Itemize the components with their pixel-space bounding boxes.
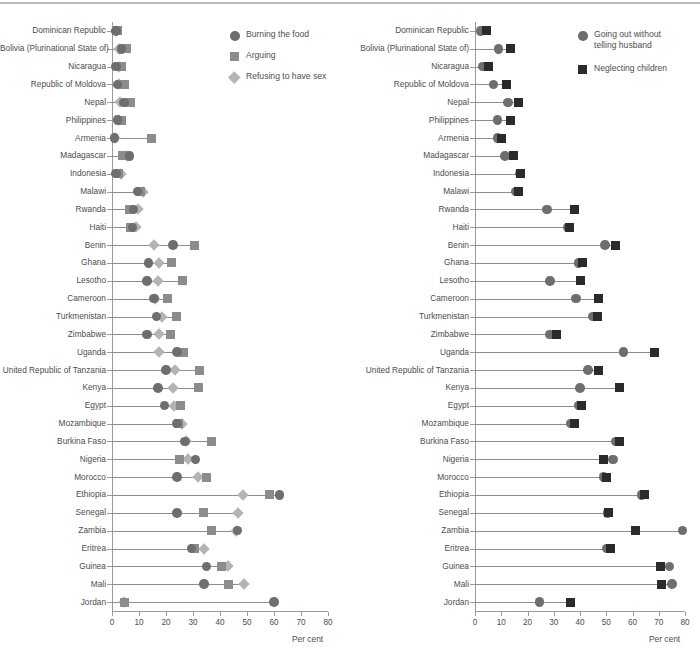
value-connector-line — [112, 441, 212, 442]
value-connector-line — [475, 531, 682, 532]
data-point-circle — [110, 133, 120, 143]
value-connector-line — [112, 495, 279, 496]
data-point-square — [176, 401, 185, 410]
value-connector-line — [112, 370, 200, 371]
data-point-diamond — [152, 275, 163, 286]
category-label: Egypt — [0, 396, 106, 415]
data-point-square — [577, 401, 586, 410]
data-point-circle — [172, 508, 182, 518]
data-point-circle — [128, 223, 138, 233]
data-point-circle — [233, 526, 243, 536]
category-label: Dominican Republic — [350, 21, 469, 40]
category-label: Mozambique — [350, 414, 469, 433]
x-axis-tick-label: 40 — [570, 618, 590, 627]
data-point-square — [497, 134, 506, 143]
category-label: Nigeria — [0, 450, 106, 469]
data-point-circle — [172, 419, 182, 429]
data-point-circle — [119, 98, 129, 108]
x-axis-tick — [301, 612, 302, 616]
data-point-square — [175, 455, 184, 464]
category-label: Jordan — [0, 593, 106, 612]
data-point-square — [611, 241, 620, 250]
value-connector-line — [475, 441, 619, 442]
value-connector-line — [475, 495, 644, 496]
category-label: Benin — [350, 236, 469, 255]
x-axis-tick — [193, 612, 194, 616]
legend-label: Neglecting children — [594, 63, 667, 74]
data-point-square — [656, 562, 665, 571]
value-connector-line — [475, 602, 571, 603]
x-axis-title: Per cent — [649, 634, 680, 644]
data-point-circle — [111, 26, 121, 36]
data-point-square — [163, 294, 172, 303]
x-axis-tick — [274, 612, 275, 616]
category-label: Uganda — [350, 343, 469, 362]
category-label: Guinea — [350, 557, 469, 576]
data-point-circle — [142, 276, 152, 286]
data-point-circle — [180, 437, 190, 447]
data-point-diamond — [198, 543, 209, 554]
data-point-square — [615, 383, 624, 392]
x-axis-tick — [528, 612, 529, 616]
value-connector-line — [475, 477, 606, 478]
category-label: Indonesia — [350, 164, 469, 183]
legend-swatch-circle-icon — [578, 31, 588, 41]
data-point-square — [195, 366, 204, 375]
data-point-circle — [489, 80, 499, 90]
left-plot-area: Dominican RepublicBolivia (Plurinational… — [0, 0, 350, 657]
x-axis-tick — [139, 612, 140, 616]
data-point-square — [565, 223, 574, 232]
legend-swatch-circle-icon — [230, 31, 240, 41]
x-axis-tick — [475, 612, 476, 616]
data-point-circle — [619, 347, 629, 357]
category-label: Haiti — [0, 218, 106, 237]
category-label: Ghana — [350, 253, 469, 272]
x-axis-tick — [247, 612, 248, 616]
data-point-square — [484, 62, 493, 71]
data-point-circle — [275, 490, 285, 500]
data-point-square — [516, 169, 525, 178]
category-label: Ethiopia — [350, 485, 469, 504]
category-label: Turkmenistan — [0, 307, 106, 326]
data-point-square — [552, 330, 561, 339]
legend-label: Going out withouttelling husband — [594, 29, 661, 50]
data-point-square — [167, 258, 176, 267]
x-axis-tick-label: 10 — [491, 618, 511, 627]
x-axis-tick — [580, 612, 581, 616]
x-axis-tick — [554, 612, 555, 616]
data-point-square — [606, 544, 615, 553]
data-point-square — [120, 598, 129, 607]
data-point-circle — [168, 240, 178, 250]
data-point-circle — [149, 294, 159, 304]
data-point-circle — [113, 115, 123, 125]
data-point-circle — [269, 597, 279, 607]
value-connector-line — [475, 424, 575, 425]
category-label: Armenia — [350, 129, 469, 148]
category-label: Uganda — [0, 343, 106, 362]
category-label: Burkina Faso — [350, 432, 469, 451]
data-point-square — [604, 508, 613, 517]
category-label: United Republic of Tanzania — [350, 361, 469, 380]
value-connector-line — [475, 549, 610, 550]
category-label: Madagascar — [350, 146, 469, 165]
data-point-circle — [600, 240, 610, 250]
data-point-diamond — [154, 329, 165, 340]
data-point-circle — [493, 115, 503, 125]
data-point-diamond — [170, 364, 181, 375]
left-chart-panel: Dominican RepublicBolivia (Plurinational… — [0, 0, 350, 657]
data-point-circle — [172, 347, 182, 357]
data-point-diamond — [154, 257, 165, 268]
category-label: Rwanda — [0, 200, 106, 219]
legend-label: Burning the food — [246, 29, 309, 40]
data-point-square — [194, 383, 203, 392]
right-chart-panel: Dominican RepublicBolivia (Plurinational… — [350, 0, 700, 657]
data-point-circle — [535, 597, 545, 607]
category-label: United Republic of Tanzania — [0, 361, 106, 380]
data-point-circle — [667, 579, 677, 589]
category-label: Morocco — [350, 468, 469, 487]
data-point-square — [217, 562, 226, 571]
category-label: Bolivia (Plurinational State of) — [350, 39, 469, 58]
x-axis-tick — [166, 612, 167, 616]
category-label: Ethiopia — [0, 485, 106, 504]
category-label: Ghana — [0, 253, 106, 272]
